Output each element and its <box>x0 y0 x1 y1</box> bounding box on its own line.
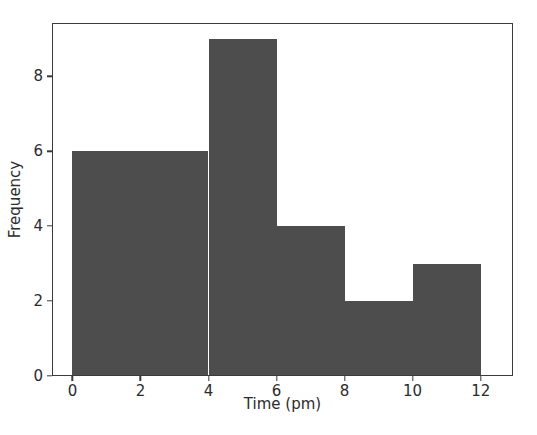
bar-bin-8-10 <box>345 301 413 375</box>
y-ticklabel-0: 0 <box>33 369 43 384</box>
y-axis-label-text: Frequency <box>9 161 24 239</box>
y-tick-8 <box>47 76 52 77</box>
y-axis-label: Frequency <box>6 23 26 376</box>
histogram-figure: 024681012 02468 Time (pm) Frequency <box>0 0 537 435</box>
x-tick-6 <box>276 376 277 381</box>
y-ticklabel-6: 6 <box>33 144 43 159</box>
x-tick-0 <box>72 376 73 381</box>
y-tick-2 <box>47 300 52 301</box>
bar-bin-2-4 <box>140 151 208 374</box>
x-tick-2 <box>140 376 141 381</box>
x-tick-10 <box>412 376 413 381</box>
y-tick-4 <box>47 225 52 226</box>
y-tick-6 <box>47 150 52 151</box>
bar-bin-4-6 <box>209 39 277 375</box>
y-ticklabel-4: 4 <box>33 219 43 234</box>
y-ticklabel-8: 8 <box>33 69 43 84</box>
bar-bin-10-12 <box>413 264 481 375</box>
x-axis-label: Time (pm) <box>52 397 513 412</box>
y-ticklabel-2: 2 <box>33 294 43 309</box>
x-tick-12 <box>480 376 481 381</box>
bar-bin-6-8 <box>277 226 345 374</box>
x-tick-8 <box>344 376 345 381</box>
plot-area: 024681012 02468 <box>52 23 513 376</box>
y-tick-0 <box>47 375 52 376</box>
bar-bin-0-2 <box>72 151 140 374</box>
x-tick-4 <box>208 376 209 381</box>
bar-series <box>52 23 513 376</box>
